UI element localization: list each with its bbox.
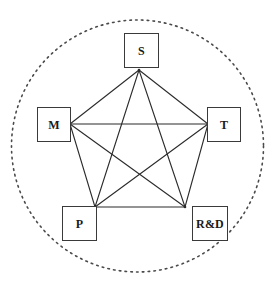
pentagon-diagram: SMTPR&D	[0, 0, 278, 289]
node-label-rd: R&D	[196, 218, 224, 230]
node-box-t[interactable]: T	[207, 107, 241, 142]
edge-layer	[70, 70, 208, 207]
edge-s-rd	[139, 70, 185, 207]
node-label-t: T	[220, 119, 228, 131]
node-box-s[interactable]: S	[124, 33, 159, 68]
edge-m-p	[70, 124, 95, 207]
node-box-p[interactable]: P	[62, 206, 97, 241]
node-label-m: M	[48, 119, 60, 131]
edge-s-p	[95, 70, 139, 207]
node-box-rd[interactable]: R&D	[192, 206, 228, 241]
edge-t-p	[95, 124, 208, 207]
edge-m-rd	[70, 124, 185, 207]
vertex-point-rd	[184, 206, 187, 209]
node-label-s: S	[138, 45, 145, 57]
edge-s-m	[70, 70, 139, 124]
edge-t-rd	[185, 124, 208, 207]
edge-s-t	[139, 70, 208, 124]
node-box-m[interactable]: M	[37, 107, 71, 142]
node-label-p: P	[76, 218, 84, 230]
vertex-point-s	[138, 69, 141, 72]
